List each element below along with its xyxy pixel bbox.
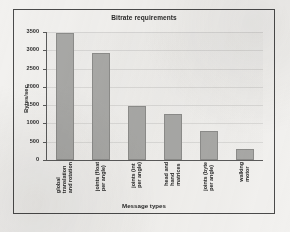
bar-slot xyxy=(119,32,155,160)
plot-area: 0500100015002000250030003500 xyxy=(46,32,263,161)
x-category-label-4: head andhandmatrices xyxy=(163,162,182,186)
bar-1[interactable] xyxy=(56,33,74,160)
y-tick-label: 2500 xyxy=(15,65,39,71)
scanned-page: Bitrate requirements Bytes/sec 050010001… xyxy=(0,0,290,232)
x-category-label-line: per angle) xyxy=(136,162,142,188)
bar-slot xyxy=(83,32,119,160)
x-category-label-3: joints (intper angle) xyxy=(130,162,142,188)
bar-slot xyxy=(155,32,191,160)
chart-frame: Bitrate requirements Bytes/sec 050010001… xyxy=(13,9,275,214)
y-tick-label: 1500 xyxy=(15,101,39,107)
x-category-label-2: joints (floatper angle) xyxy=(94,162,106,191)
bar-5[interactable] xyxy=(200,131,218,160)
bar-slot xyxy=(227,32,263,160)
bar-series xyxy=(47,32,263,160)
bar-slot xyxy=(191,32,227,160)
x-category-label-line: matrices xyxy=(175,162,181,186)
x-category-label-6: walkingmotor xyxy=(238,162,250,182)
y-tick-label: 1000 xyxy=(15,119,39,125)
y-tick-label: 2000 xyxy=(15,83,39,89)
x-axis-title: Message types xyxy=(14,202,274,209)
x-category-label-line: per angle) xyxy=(100,162,106,191)
bar-4[interactable] xyxy=(164,114,182,160)
y-tick-label: 500 xyxy=(15,138,39,144)
x-category-label-line: per angle) xyxy=(208,162,214,191)
x-category-label-line: motor xyxy=(244,162,250,182)
bar-3[interactable] xyxy=(128,106,146,160)
bar-slot xyxy=(47,32,83,160)
x-category-label-1: globaltranslationand rotation xyxy=(55,162,74,193)
chart-title: Bitrate requirements xyxy=(14,14,274,21)
y-tick-mark xyxy=(43,160,47,161)
x-category-label-line: and rotation xyxy=(67,162,73,193)
y-tick-label: 0 xyxy=(15,156,39,162)
bar-6[interactable] xyxy=(236,149,254,160)
x-category-label-5: joints (byteper angle) xyxy=(202,162,214,191)
y-tick-label: 3000 xyxy=(15,46,39,52)
y-tick-label: 3500 xyxy=(15,28,39,34)
bar-2[interactable] xyxy=(92,53,110,160)
